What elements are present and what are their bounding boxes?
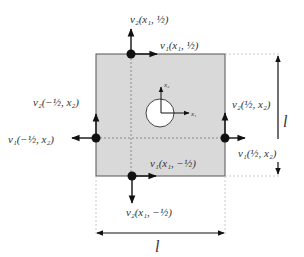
- right-v1-label: v₁(½, x₂): [238, 147, 277, 160]
- right-v2-label: v₂(½, x₂): [232, 98, 271, 111]
- top-v2-label: v₂(x₁, ½): [130, 13, 169, 26]
- right-node: [221, 134, 230, 143]
- left-v2-label: v₂(−½, x₂): [33, 96, 79, 109]
- left-v1-label: v₁(−½, x₂): [8, 133, 54, 146]
- width-dimension-label: l: [155, 238, 160, 255]
- height-dimension-label: l: [283, 113, 288, 130]
- top-node: [127, 50, 136, 59]
- top-v1-label: v₁(x₁, ½): [160, 39, 199, 52]
- bottom-node: [128, 172, 137, 181]
- bottom-v1-label: v₁(x₁, −½): [150, 157, 196, 170]
- periodic-cell-diagram: x₂ x₁ v₂(x₁, ½) v₁(x₁, ½) v₂(−½, x₂) v₁(…: [0, 0, 304, 257]
- left-node: [92, 134, 101, 143]
- bottom-v2-label: v₂(x₁, −½): [126, 206, 172, 219]
- axis-x2-label: x₂: [163, 81, 170, 89]
- axis-x1-label: x₁: [190, 110, 197, 118]
